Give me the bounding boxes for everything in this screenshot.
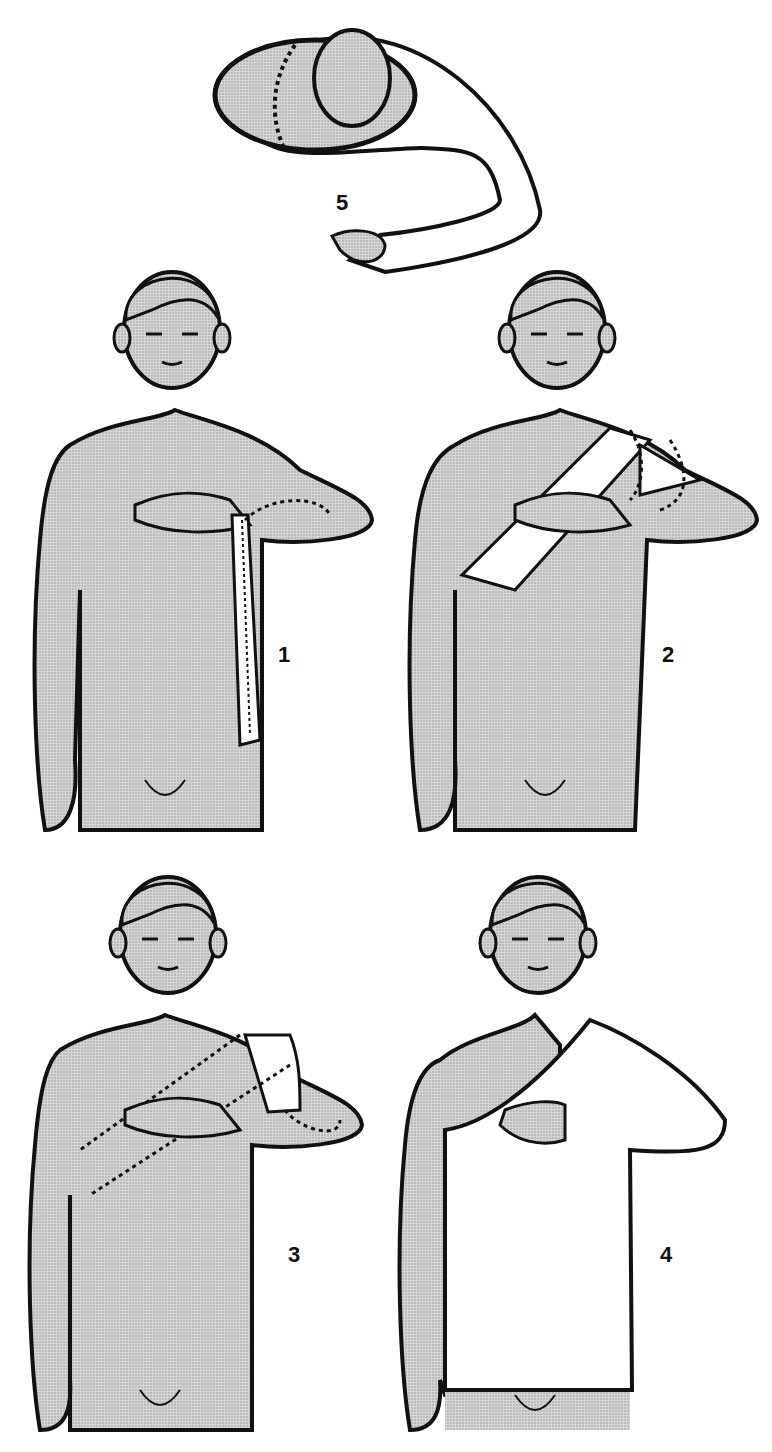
step-5-label: 5 (336, 190, 348, 216)
step-1-label: 1 (278, 642, 290, 668)
step-3-figure (30, 877, 362, 1430)
step-4-figure (400, 877, 725, 1430)
step-4-label: 4 (660, 1242, 672, 1268)
illustration-canvas (0, 0, 772, 1452)
step-2-label: 2 (662, 642, 674, 668)
step-5-figure (215, 30, 540, 272)
step-3-label: 3 (288, 1242, 300, 1268)
step-1-figure (35, 272, 372, 830)
step-2-figure (410, 272, 757, 830)
